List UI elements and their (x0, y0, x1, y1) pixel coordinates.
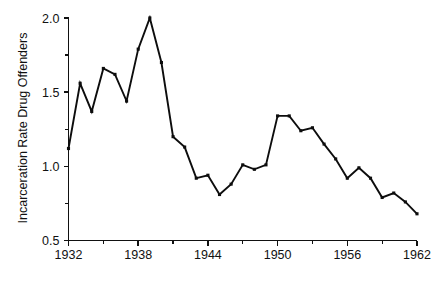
y-tick-label: 0.5 (42, 234, 59, 248)
data-point-marker (241, 163, 244, 166)
data-point-marker (415, 212, 418, 215)
y-axis-title: Incarceration Rate Drug Offenders (16, 33, 30, 224)
series-markers (67, 16, 419, 215)
data-point-marker (276, 114, 279, 117)
data-point-marker (323, 143, 326, 146)
y-tick-label: 2.0 (42, 12, 59, 26)
y-tick-label: 1.5 (42, 86, 59, 100)
x-tick-label: 1944 (194, 248, 222, 262)
series-line-incarceration-rate (69, 18, 418, 214)
data-point-marker (160, 61, 163, 64)
y-tick-label: 1.0 (42, 160, 59, 174)
data-point-marker (334, 157, 337, 160)
x-tick-label: 1962 (403, 248, 431, 262)
data-point-marker (346, 177, 349, 180)
data-point-marker (102, 67, 105, 70)
data-point-marker (137, 48, 140, 51)
data-point-marker (90, 110, 93, 113)
data-point-marker (206, 174, 209, 177)
data-point-marker (67, 147, 70, 150)
x-axis-tick-labels: 193219381944195019561962 (55, 248, 431, 262)
data-point-marker (230, 183, 233, 186)
data-point-marker (404, 200, 407, 203)
data-point-marker (381, 196, 384, 199)
data-point-marker (299, 129, 302, 132)
data-point-marker (288, 114, 291, 117)
data-point-marker (253, 168, 256, 171)
line-chart: Incarceration Rate Drug Offenders 0.51.0… (0, 0, 436, 283)
y-axis-tick-labels: 0.51.01.52.0 (42, 12, 59, 249)
data-point-marker (113, 73, 116, 76)
data-point-marker (79, 82, 82, 85)
x-tick-label: 1956 (333, 248, 361, 262)
x-tick-label: 1950 (264, 248, 292, 262)
data-point-marker (369, 177, 372, 180)
x-tick-label: 1932 (55, 248, 83, 262)
chart-figure: Incarceration Rate Drug Offenders 0.51.0… (0, 0, 436, 283)
data-point-marker (183, 146, 186, 149)
data-point-marker (264, 163, 267, 166)
data-point-marker (218, 193, 221, 196)
data-point-marker (172, 135, 175, 138)
data-point-marker (357, 166, 360, 169)
x-tick-label: 1938 (124, 248, 152, 262)
data-point-marker (148, 16, 151, 19)
data-point-marker (311, 126, 314, 129)
data-point-marker (392, 191, 395, 194)
data-point-marker (195, 177, 198, 180)
data-point-marker (125, 100, 128, 103)
